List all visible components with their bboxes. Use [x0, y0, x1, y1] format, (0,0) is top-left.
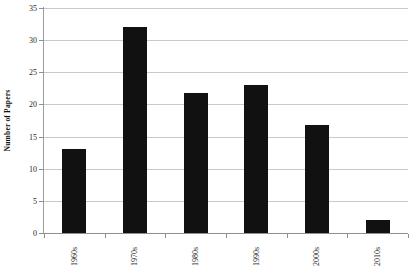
- bar[interactable]: [184, 93, 208, 233]
- x-axis-tick-label-text: 1990s: [252, 247, 261, 266]
- y-axis-tick: [39, 169, 44, 170]
- bar[interactable]: [123, 27, 147, 233]
- x-axis-tick-label: 1980s: [189, 241, 203, 274]
- y-axis-tick-label: 35: [1, 4, 37, 13]
- x-axis-tick-label-text: 1980s: [191, 247, 200, 266]
- x-axis-tick: [44, 234, 45, 238]
- y-axis-tick: [39, 104, 44, 105]
- x-axis-tick: [226, 234, 227, 238]
- x-axis-tick-label: 2010s: [371, 241, 385, 274]
- bar[interactable]: [62, 149, 86, 233]
- y-axis-tick-label: 10: [1, 164, 37, 173]
- y-axis-tick-label: 20: [1, 100, 37, 109]
- x-axis-tick-label-text: 2000s: [313, 247, 322, 266]
- x-axis-tick: [165, 234, 166, 238]
- x-axis-tick: [287, 234, 288, 238]
- bar[interactable]: [305, 125, 329, 233]
- x-axis-tick-label-text: 2010s: [373, 247, 382, 266]
- bar[interactable]: [244, 85, 268, 233]
- bar-chart: Number of Papers 05101520253035 1960s197…: [0, 0, 417, 274]
- x-axis-tick-label-text: 1960s: [70, 247, 79, 266]
- y-axis-tick: [39, 8, 44, 9]
- y-axis-tick: [39, 72, 44, 73]
- y-axis-tick-label: 0: [1, 229, 37, 238]
- y-axis-tick-label: 5: [1, 196, 37, 205]
- x-axis-tick: [408, 234, 409, 238]
- x-axis-tick-label: 1970s: [128, 241, 142, 274]
- x-axis-tick-label: 2000s: [310, 241, 324, 274]
- y-axis-tick-labels: 05101520253035: [0, 0, 37, 274]
- y-axis-tick: [39, 137, 44, 138]
- y-axis-tick: [39, 40, 44, 41]
- x-axis-tick-label: 1960s: [67, 241, 81, 274]
- x-axis-tick-label: 1990s: [249, 241, 263, 274]
- y-axis-tick-label: 30: [1, 36, 37, 45]
- y-axis-tick-label: 15: [1, 132, 37, 141]
- bar-series: [44, 8, 408, 233]
- x-axis-tick: [347, 234, 348, 238]
- x-axis-tick-label-text: 1970s: [131, 247, 140, 266]
- bar[interactable]: [366, 220, 390, 233]
- x-axis-tick: [105, 234, 106, 238]
- y-axis-tick: [39, 201, 44, 202]
- y-axis-tick-label: 25: [1, 68, 37, 77]
